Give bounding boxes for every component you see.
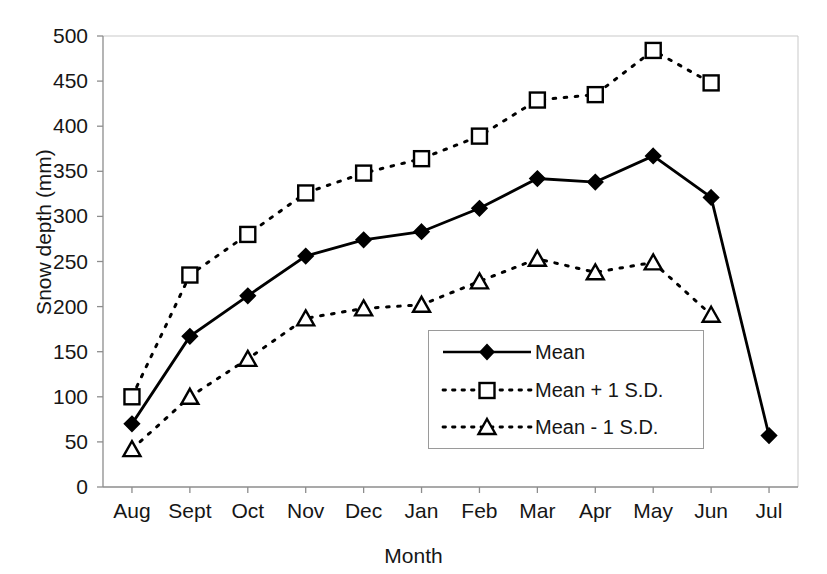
legend-item-mean: Mean [429,335,703,369]
series-marker [762,428,777,443]
chart-legend: Mean Mean + 1 S.D. Mean - 1 S.D. [428,330,704,449]
y-axis-title: Snow depth (mm) [32,92,56,372]
x-tick-label: Dec [345,499,382,523]
legend-item-mean-minus-sd: Mean - 1 S.D. [429,410,703,444]
y-tick-label: 0 [22,475,88,499]
legend-sample-mean-plus-sd [439,378,535,402]
series-marker [356,166,371,181]
x-tick-label: Jan [405,499,439,523]
x-tick-label: Nov [287,499,324,523]
legend-label-mean: Mean [535,341,585,364]
snow-depth-chart: 050100150200250300350400450500 AugSeptOc… [0,0,827,574]
y-tick-label: 100 [22,385,88,409]
series-marker [124,389,139,404]
legend-sample-mean-minus-sd [439,415,535,439]
x-tick-label: Apr [579,499,612,523]
series-marker [240,227,255,242]
x-axis-tick-labels: AugSeptOctNovDecJanFebMarAprMayJunJul [0,499,827,529]
legend-label-mean-minus-sd: Mean - 1 S.D. [535,416,658,439]
series-marker [356,232,371,247]
y-tick-label: 50 [22,430,88,454]
series-marker [529,251,546,266]
series-marker [181,389,198,404]
series-marker [704,75,719,90]
plot-canvas [0,0,827,574]
legend-item-mean-plus-sd: Mean + 1 S.D. [429,373,703,407]
x-tick-label: May [633,499,673,523]
x-tick-label: Mar [519,499,555,523]
series-marker [298,185,313,200]
series-marker [182,268,197,283]
x-tick-label: Jul [756,499,783,523]
y-tick-label: 450 [22,69,88,93]
x-tick-label: Oct [231,499,264,523]
series-marker [472,201,487,216]
series-marker [471,273,488,288]
series-marker [530,171,545,186]
series-marker [124,416,139,431]
series-marker [588,87,603,102]
x-tick-label: Sept [168,499,211,523]
series-marker [472,129,487,144]
series-marker [414,151,429,166]
series-marker [413,297,430,312]
series-marker [646,43,661,58]
legend-sample-mean [439,340,535,364]
series-marker [530,93,545,108]
legend-label-mean-plus-sd: Mean + 1 S.D. [535,379,663,402]
x-tick-label: Aug [113,499,150,523]
x-tick-label: Feb [461,499,497,523]
series-marker [588,175,603,190]
series-marker [645,254,662,269]
series-marker [414,224,429,239]
x-tick-label: Jun [694,499,728,523]
x-axis-title: Month [0,544,827,568]
series-marker [355,300,372,315]
y-tick-label: 500 [22,24,88,48]
series-marker [123,441,140,456]
